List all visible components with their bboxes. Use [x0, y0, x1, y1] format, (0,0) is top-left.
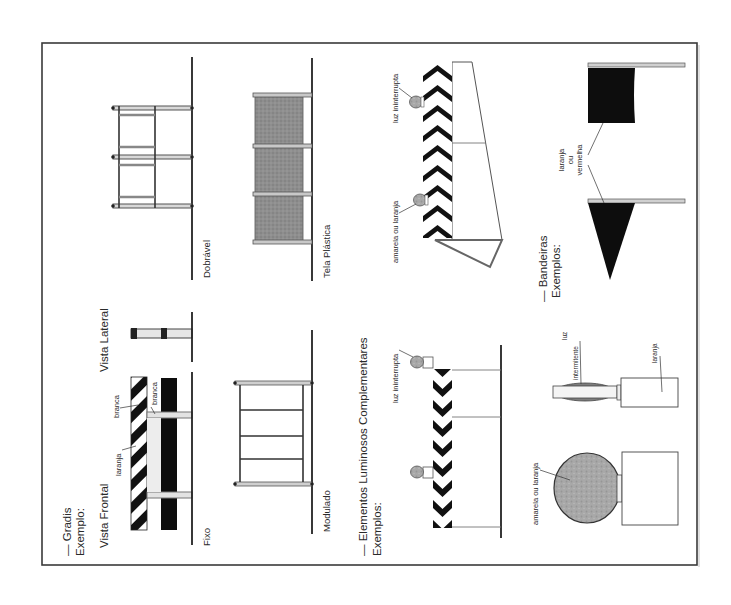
- side-view-label: Vista Lateral: [98, 308, 110, 372]
- label-laranja-stripe: laranja: [114, 453, 123, 476]
- type-label-dobravel: Dobrável: [201, 240, 212, 278]
- label-laranja-box: laranja: [651, 343, 659, 363]
- continuous-lamp-lower-2: [411, 466, 434, 478]
- square-flag: [588, 68, 635, 123]
- barrier-backing: [147, 418, 161, 492]
- label-luz-ininterrupta-upper: luz ininterrupta: [391, 73, 400, 123]
- gradis-example-label: Exemplo:: [74, 508, 86, 556]
- label-amarela-laranja-upper: amarela ou laranja: [391, 200, 400, 263]
- front-view-label: Vista Frontal: [98, 484, 110, 548]
- chevron-bar-wedge: [423, 62, 452, 238]
- bandeiras-heading: — Bandeiras: [537, 235, 549, 302]
- flag-color-line3: vermelha: [575, 144, 584, 176]
- label-branca-backing: branca: [150, 381, 159, 405]
- traffic-devices-diagram: — Gradis Exemplo: Vista Frontal Vista La…: [0, 0, 731, 605]
- type-label-modulado: Modulado: [321, 490, 332, 532]
- gradis-heading: — Gradis: [61, 507, 73, 556]
- solid-barrier-bar: [161, 378, 177, 530]
- bandeiras-examples-label: Exemplos:: [550, 244, 562, 298]
- luminosos-examples-label: Exemplos:: [371, 502, 383, 556]
- chevron-bar-straight: [433, 369, 452, 528]
- luminosos-heading: — Elementos Luminosos Complementares: [357, 337, 369, 556]
- label-intermitente: intermitente: [572, 346, 579, 380]
- plastic-mesh-panel: [255, 96, 303, 242]
- type-label-fixo: Fixo: [201, 528, 212, 546]
- striped-barrier-bar: [131, 377, 147, 530]
- flag-color-line1: laranja: [557, 148, 566, 171]
- flag-pole-upper: [588, 63, 685, 67]
- label-luz: luz: [561, 332, 568, 340]
- continuous-lamp-lower-1: [411, 356, 434, 368]
- label-branca-stripe: branca: [112, 394, 121, 418]
- flag-color-line2: ou: [566, 156, 575, 164]
- side-view-post: [131, 328, 192, 339]
- label-amarela-laranja-round: amarela ou laranja: [531, 462, 540, 525]
- label-luz-ininterrupta-lower: luz ininterrupta: [391, 353, 400, 403]
- type-label-tela-plastica: Tela Plástica: [321, 224, 332, 278]
